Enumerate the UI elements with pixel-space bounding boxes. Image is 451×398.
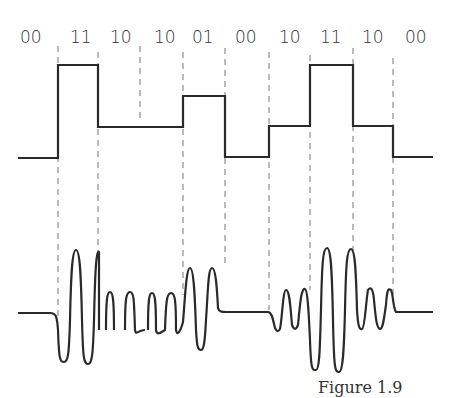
modulated-carrier-signal [18,248,433,372]
figure-caption: Figure 1.9 [318,378,402,397]
waveform-svg [0,0,451,398]
bit-boundary-lines [58,46,393,320]
multilevel-baseband-signal [18,65,433,158]
